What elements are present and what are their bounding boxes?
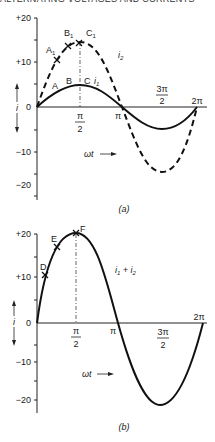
y-tick-a-20: +20 <box>16 13 31 23</box>
point-label-a1: A1 <box>46 45 56 56</box>
svg-text:2: 2 <box>73 339 78 349</box>
point-label-b1: B1 <box>64 28 74 39</box>
x-axis-arrow-b <box>97 372 114 376</box>
curve-label-i2: i2 <box>118 50 124 61</box>
x-axis-label-a: ωt <box>84 149 94 159</box>
y-tick-b-10: +10 <box>16 272 31 282</box>
x-tick-b-pi: π <box>110 326 116 336</box>
diagram-canvas: +20 +10 0 −10 −20 i π 2 π 3π 2 2π <box>0 0 215 442</box>
curve-label-sum: i1 + i2 <box>115 265 137 276</box>
y-tick-b-0: 0 <box>26 318 31 328</box>
x-tick-b-3pi2: 3π 2 <box>157 327 169 350</box>
x-axis-label-b: ωt <box>82 369 92 379</box>
svg-text:π: π <box>77 111 83 121</box>
svg-text:2: 2 <box>77 124 82 134</box>
markers-a <box>54 40 82 63</box>
x-tick-a-2pi: 2π <box>191 96 202 106</box>
x-tick-a-3pi2: 3π 2 <box>156 84 168 106</box>
caption-b: (b) <box>119 422 130 432</box>
x-tick-b-pi2: π 2 <box>71 326 81 349</box>
svg-text:2: 2 <box>160 340 165 350</box>
x-tick-b-2pi: 2π <box>193 312 204 322</box>
x-tick-a-pi: π <box>115 111 121 121</box>
y-tick-a-10: +10 <box>16 57 31 67</box>
point-label-b: B <box>66 76 72 86</box>
plot-a: +20 +10 0 −10 −20 i π 2 π 3π 2 2π <box>13 13 207 214</box>
svg-text:2: 2 <box>159 96 164 106</box>
point-label-a: A <box>52 81 58 91</box>
y-tick-a-m10: −10 <box>16 147 31 157</box>
svg-text:3π: 3π <box>156 84 167 94</box>
point-label-c: C <box>84 76 91 86</box>
y-tick-a-0: 0 <box>26 102 31 112</box>
x-tick-a-pi2: π 2 <box>75 111 85 134</box>
caption-a: (a) <box>119 204 130 214</box>
y-tick-b-20: +20 <box>16 229 31 239</box>
y-tick-b-m20: −20 <box>16 395 31 405</box>
curve-label-i1: i1 <box>94 76 99 87</box>
y-tick-a-m20: −20 <box>16 180 31 190</box>
svg-text:π: π <box>73 326 79 336</box>
curve-i1-plus-i2 <box>37 233 203 405</box>
x-axis-arrow-a <box>100 152 117 156</box>
point-label-e: E <box>51 234 57 244</box>
point-label-d: D <box>40 262 47 272</box>
y-tick-b-m10: −10 <box>16 357 31 367</box>
point-label-c1: C1 <box>86 28 97 39</box>
svg-text:3π: 3π <box>157 327 168 337</box>
point-label-f: F <box>80 224 86 234</box>
plot-b: +20 +10 0 −10 −20 i π 2 π 3π 2 2π <box>10 224 207 432</box>
